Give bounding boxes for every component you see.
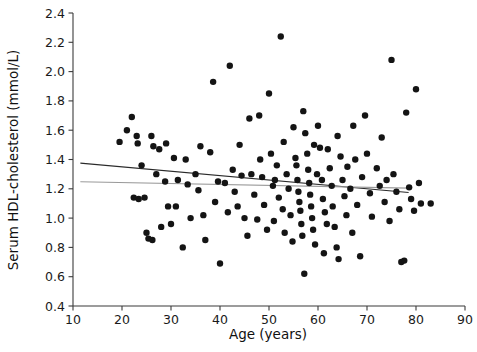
- data-point: [354, 202, 360, 208]
- data-point: [175, 177, 181, 183]
- data-point: [374, 165, 380, 171]
- data-point: [215, 178, 221, 184]
- data-point: [312, 241, 318, 247]
- x-tick-label: 10: [65, 312, 81, 327]
- data-point: [381, 199, 387, 205]
- data-point: [143, 230, 149, 236]
- data-point: [173, 203, 179, 209]
- x-tick-label: 70: [359, 312, 375, 327]
- data-point: [135, 196, 141, 202]
- y-tick-label: 1.8: [45, 93, 65, 108]
- data-point: [416, 180, 422, 186]
- data-point: [254, 216, 260, 222]
- y-tick-label: 0.6: [45, 269, 65, 284]
- data-point: [294, 177, 300, 183]
- data-point: [158, 224, 164, 230]
- data-point: [257, 156, 263, 162]
- data-point: [150, 143, 156, 149]
- data-point: [162, 178, 168, 184]
- data-point: [266, 90, 272, 96]
- data-point: [335, 256, 341, 262]
- data-point: [325, 146, 331, 152]
- data-point: [116, 139, 122, 145]
- data-point: [406, 184, 412, 190]
- data-point: [369, 213, 375, 219]
- data-point: [289, 238, 295, 244]
- data-point: [225, 209, 231, 215]
- scatter-plot-figure: 0.40.60.81.01.21.41.61.82.02.22.41020304…: [0, 0, 477, 352]
- y-tick-label: 1.4: [45, 152, 65, 167]
- data-point: [393, 189, 399, 195]
- data-point: [210, 79, 216, 85]
- data-point: [339, 177, 345, 183]
- data-point: [322, 209, 328, 215]
- data-point: [222, 180, 228, 186]
- data-point: [281, 139, 287, 145]
- data-point: [236, 142, 242, 148]
- regression-line-secondary: [80, 182, 408, 188]
- data-point: [319, 177, 325, 183]
- data-point: [197, 143, 203, 149]
- data-point: [315, 123, 321, 129]
- data-point: [259, 174, 265, 180]
- data-point: [331, 224, 337, 230]
- data-point: [184, 181, 190, 187]
- data-point: [248, 171, 254, 177]
- data-point: [168, 221, 174, 227]
- data-point: [304, 150, 310, 156]
- data-point: [388, 57, 394, 63]
- data-point: [308, 203, 314, 209]
- data-point: [200, 212, 206, 218]
- data-point: [309, 215, 315, 221]
- data-point: [290, 124, 296, 130]
- data-point: [287, 212, 293, 218]
- data-points-group: [116, 33, 434, 277]
- data-point: [272, 177, 278, 183]
- data-point: [311, 142, 317, 148]
- data-point: [192, 171, 198, 177]
- y-tick-label: 1.0: [45, 211, 65, 226]
- data-point: [261, 202, 267, 208]
- data-point: [349, 230, 355, 236]
- data-point: [296, 199, 302, 205]
- data-point: [278, 33, 284, 39]
- y-axis-title: Serum HDL-cholesterol (mmol/L): [5, 50, 21, 271]
- data-point: [234, 203, 240, 209]
- data-point: [298, 221, 304, 227]
- x-axis-title: Age (years): [229, 326, 307, 342]
- data-point: [401, 257, 407, 263]
- data-point: [134, 133, 140, 139]
- data-point: [187, 215, 193, 221]
- y-tick-label: 0.4: [45, 299, 65, 314]
- data-point: [281, 230, 287, 236]
- data-point: [129, 114, 135, 120]
- data-point: [396, 206, 402, 212]
- data-point: [232, 189, 238, 195]
- data-point: [324, 221, 330, 227]
- data-point: [418, 200, 424, 206]
- data-point: [195, 187, 201, 193]
- data-point: [301, 271, 307, 277]
- data-point: [299, 232, 305, 238]
- y-tick-label: 1.6: [45, 123, 65, 138]
- data-point: [171, 155, 177, 161]
- data-point: [379, 134, 385, 140]
- data-point: [413, 86, 419, 92]
- data-point: [341, 193, 347, 199]
- data-point: [292, 155, 298, 161]
- data-point: [268, 150, 274, 156]
- data-point: [362, 112, 368, 118]
- data-point: [124, 127, 130, 133]
- data-point: [310, 227, 316, 233]
- x-tick-label: 60: [310, 312, 326, 327]
- x-tick-label: 20: [114, 312, 130, 327]
- data-point: [408, 196, 414, 202]
- data-point: [241, 215, 247, 221]
- y-tick-label: 1.2: [45, 181, 65, 196]
- data-point: [293, 162, 299, 168]
- data-point: [163, 140, 169, 146]
- data-point: [329, 183, 335, 189]
- data-point: [271, 218, 277, 224]
- data-point: [156, 146, 162, 152]
- data-point: [217, 260, 223, 266]
